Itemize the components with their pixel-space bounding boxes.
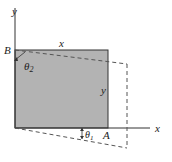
right-side-label: y (100, 84, 106, 96)
x-axis-label: x (154, 122, 160, 134)
shear-deformation-diagram: y x B A x y θ2 θ1 (0, 0, 172, 162)
corner-b-label: B (4, 44, 11, 56)
angle-theta1-arrow-down-icon (80, 136, 84, 139)
y-axis-label: y (11, 5, 17, 17)
angle-theta1-label: θ1 (85, 129, 93, 142)
top-side-label: x (58, 37, 64, 49)
corner-a-label: A (102, 129, 110, 141)
deformed-bottom-edge (15, 128, 127, 148)
